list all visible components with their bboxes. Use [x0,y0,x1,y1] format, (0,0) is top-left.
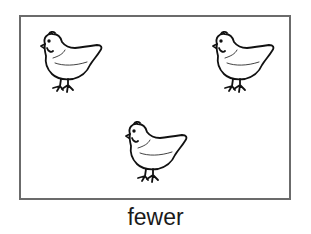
caption-label: fewer [0,203,311,231]
hen-icon [35,30,105,98]
hen-icon [207,30,277,98]
hen-icon [120,120,190,188]
